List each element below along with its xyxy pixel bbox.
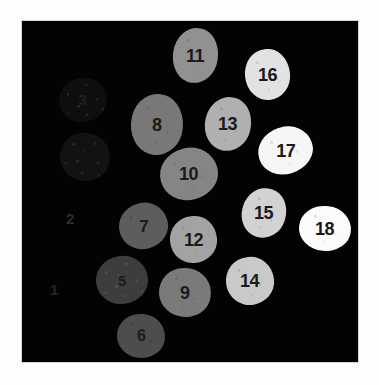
nucleus-label-13: 13 xyxy=(218,115,237,133)
nucleus-label-18: 18 xyxy=(315,220,334,238)
nucleus-blob-15: 15 xyxy=(236,183,293,244)
nucleus-label-5: 5 xyxy=(118,273,126,288)
nucleus-label-3: 3 xyxy=(79,93,86,107)
nucleus-label-8: 8 xyxy=(152,115,162,133)
nucleus-blob-13: 13 xyxy=(200,93,255,155)
nucleus-label-7: 7 xyxy=(139,218,148,235)
grayscale-image-canvas: 12356789101112131415161718 xyxy=(22,21,358,362)
nucleus-label-6: 6 xyxy=(137,328,145,344)
nucleus-blob-18: 18 xyxy=(297,204,353,253)
nucleus-label-11: 11 xyxy=(186,47,204,65)
nucleus-blob-unlabeled xyxy=(55,128,115,187)
region-index-label-1: 1 xyxy=(50,282,58,297)
nucleus-blob-16: 16 xyxy=(242,47,292,102)
nucleus-blob-11: 11 xyxy=(169,25,221,86)
nucleus-blob-6: 6 xyxy=(115,312,167,361)
nucleus-label-14: 14 xyxy=(240,272,259,290)
nucleus-blob-7: 7 xyxy=(114,197,174,255)
nucleus-blob-9: 9 xyxy=(155,264,214,321)
nucleus-blob-8: 8 xyxy=(129,92,185,156)
nucleus-blob-12: 12 xyxy=(168,214,219,265)
nucleus-label-15: 15 xyxy=(254,204,273,222)
figure-root: 12356789101112131415161718 xyxy=(0,0,379,385)
nucleus-label-9: 9 xyxy=(180,283,190,301)
nucleus-blob-5: 5 xyxy=(93,253,151,308)
nucleus-blob-14: 14 xyxy=(223,254,276,307)
nucleus-label-16: 16 xyxy=(258,66,277,84)
nucleus-blob-17: 17 xyxy=(252,120,319,182)
nucleus-label-10: 10 xyxy=(179,165,198,183)
nucleus-label-12: 12 xyxy=(184,231,203,249)
nucleus-blob-3: 3 xyxy=(55,73,111,126)
region-index-label-2: 2 xyxy=(66,211,74,226)
nucleus-label-17: 17 xyxy=(276,142,295,160)
